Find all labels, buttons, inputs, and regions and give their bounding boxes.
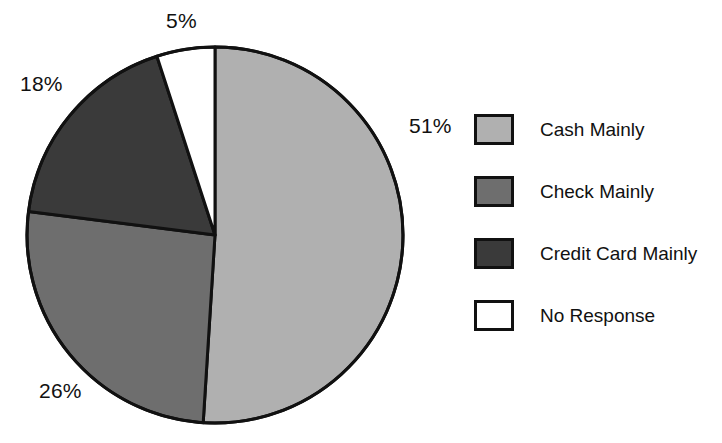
legend-item-no-response[interactable]: No Response <box>474 284 718 346</box>
legend-label-check-mainly: Check Mainly <box>540 182 654 201</box>
pie-label-credit-card: 18% <box>20 73 63 94</box>
legend-item-cash-mainly[interactable]: Cash Mainly <box>474 98 718 160</box>
pie-chart-figure: 5% 18% 51% 26% Cash MainlyCheck MainlyCr… <box>0 0 722 443</box>
pie-label-cash: 51% <box>409 115 452 136</box>
legend-item-check-mainly[interactable]: Check Mainly <box>474 160 718 222</box>
legend-swatch-credit-card-mainly <box>474 238 514 269</box>
legend-label-cash-mainly: Cash Mainly <box>540 120 645 139</box>
legend-item-credit-card-mainly[interactable]: Credit Card Mainly <box>474 222 718 284</box>
legend-label-credit-card-mainly: Credit Card Mainly <box>540 244 697 263</box>
pie-slice-group <box>27 47 403 423</box>
legend-label-no-response: No Response <box>540 306 655 325</box>
pie-label-check: 26% <box>39 380 82 401</box>
pie-label-no-response: 5% <box>166 10 197 31</box>
legend-swatch-no-response <box>474 300 514 331</box>
pie-slice-cash-mainly[interactable] <box>203 47 403 423</box>
legend-swatch-cash-mainly <box>474 114 514 145</box>
chart-legend: Cash MainlyCheck MainlyCredit Card Mainl… <box>474 98 718 346</box>
legend-swatch-check-mainly <box>474 176 514 207</box>
